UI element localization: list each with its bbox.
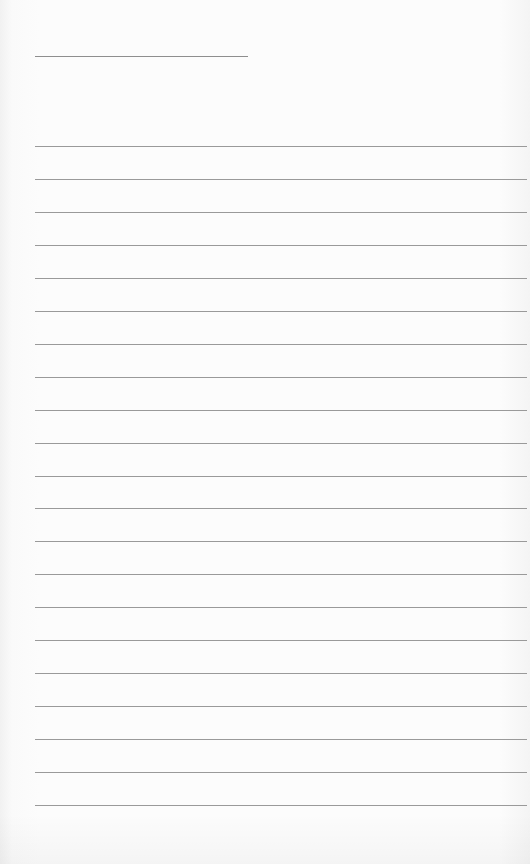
lined-paper-sheet [0,0,530,864]
ruled-line [35,574,527,575]
ruled-line [35,541,527,542]
ruled-line [35,443,527,444]
header-name-line [35,56,248,57]
ruled-line [35,508,527,509]
ruled-line [35,640,527,641]
ruled-line [35,476,527,477]
ruled-line [35,344,527,345]
ruled-line [35,607,527,608]
ruled-line [35,377,527,378]
ruled-line [35,311,527,312]
ruled-line [35,410,527,411]
paper-shadow [0,814,530,864]
ruled-line [35,772,527,773]
ruled-line [35,179,527,180]
ruled-line [35,278,527,279]
ruled-line [35,739,527,740]
ruled-line [35,212,527,213]
ruled-line [35,146,527,147]
ruled-line [35,673,527,674]
ruled-line [35,245,527,246]
ruled-line [35,805,527,806]
ruled-line [35,706,527,707]
